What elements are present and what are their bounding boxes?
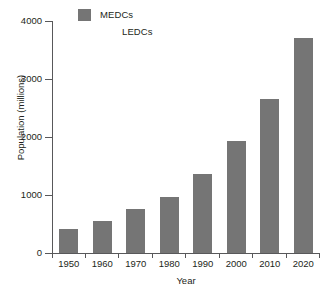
bar-2010 — [260, 99, 279, 253]
y-tick-mark-2000 — [45, 137, 52, 138]
bar-slot-1980 — [153, 21, 187, 253]
x-axis-tick-labels: 1950 1960 1970 1980 1990 2000 2010 2020 — [52, 259, 320, 269]
y-tick-mark-1000 — [45, 195, 52, 196]
y-tick-label-4000: 4000 — [21, 16, 42, 26]
x-tick-label-1970: 1970 — [119, 259, 153, 269]
bar-series-medcs — [52, 21, 320, 253]
bar-slot-2010 — [253, 21, 287, 253]
legend-swatch-medcs-icon — [78, 9, 91, 21]
y-tick-mark-4000 — [45, 21, 52, 22]
bar-slot-2020 — [287, 21, 321, 253]
bar-1950 — [59, 229, 78, 253]
bar-slot-1990 — [186, 21, 220, 253]
y-axis-title: Population (millions) — [15, 48, 26, 188]
x-axis-title: Year — [52, 275, 320, 286]
legend-label-medcs: MEDCs — [100, 10, 133, 20]
x-tick-label-1980: 1980 — [153, 259, 187, 269]
bar-1970 — [126, 209, 145, 253]
x-tick-label-1960: 1960 — [86, 259, 120, 269]
x-tick-label-2020: 2020 — [287, 259, 321, 269]
bar-1990 — [193, 174, 212, 253]
bar-slot-1960 — [86, 21, 120, 253]
y-tick-mark-3000 — [45, 79, 52, 80]
bar-1980 — [160, 197, 179, 253]
bar-1960 — [93, 221, 112, 254]
x-tick-label-2000: 2000 — [220, 259, 254, 269]
x-tick-label-1950: 1950 — [52, 259, 86, 269]
x-tick-label-2010: 2010 — [253, 259, 287, 269]
bar-slot-1950 — [52, 21, 86, 253]
bar-2000 — [227, 141, 246, 254]
bar-slot-1970 — [119, 21, 153, 253]
x-tick-label-1990: 1990 — [186, 259, 220, 269]
bar-slot-2000 — [220, 21, 254, 253]
legend-item-medcs: MEDCs — [78, 7, 228, 22]
y-tick-label-1000: 1000 — [21, 190, 42, 200]
bar-chart: MEDCs LEDCs 4000 3000 2000 1000 0 — [0, 0, 330, 292]
bar-2020 — [294, 38, 313, 253]
y-tick-label-0: 0 — [37, 248, 42, 258]
y-tick-mark-0 — [45, 253, 52, 254]
